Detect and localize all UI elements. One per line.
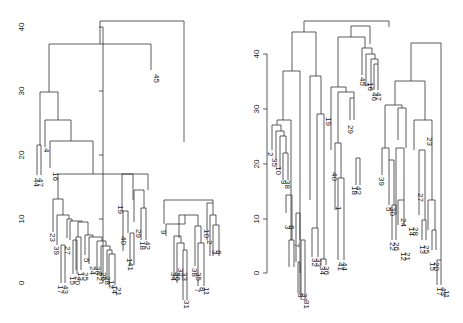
right-y-axis: 40 30 20 10 0 [252,49,267,275]
right-leaf-labels: 2 35 10 9 38 3 6 7 8 37 31 32 33 34 36 1… [266,77,451,309]
right-tick-30: 30 [252,104,261,113]
right-tick-40: 40 [252,49,261,58]
leaf-label: 21 [403,252,412,261]
leaf-label: 25 [422,245,431,254]
leaf-label: 5 [82,258,91,263]
right-tree [272,21,441,300]
leaf-label: 16 [366,82,375,91]
leaf-label: 10 [274,166,283,175]
right-tick-0: 0 [252,270,261,275]
leaf-label: 42 [354,186,363,195]
left-tick-30: 30 [17,86,26,95]
left-tick-10: 10 [17,214,26,223]
leaf-label: 2 [205,240,214,245]
leaf-label: 40 [119,236,128,245]
leaf-label: 31 [182,300,191,309]
leaf-label: 27 [416,193,425,202]
left-tick-0: 0 [17,280,26,285]
leaf-label: 19 [116,205,125,214]
leaf-label: 26 [392,242,401,251]
right-tick-20: 20 [252,159,261,168]
leaf-label: 47 [36,178,45,187]
leaf-label: 29 [134,229,143,238]
leaf-label: 1 [334,206,343,211]
leaf-label: 6 [214,250,223,255]
leaf-label: 43 [61,285,70,294]
leaf-label: 41 [126,262,135,271]
leaf-label: 44 [340,262,349,271]
leaf-label: 11 [442,290,451,299]
leaf-label: 45 [152,74,161,83]
left-tick-20: 20 [17,150,26,159]
leaf-label: 29 [346,125,355,134]
left-leaf-labels: 45 4 16 44 47 23 39 27 17 43 15 20 13 25… [32,74,161,296]
leaf-label: 2 [266,152,275,157]
leaf-label: 39 [377,177,386,186]
left-dendrogram: 40 30 20 10 0 [17,21,223,309]
leaf-label: 7 [292,243,301,248]
leaf-label: 39 [52,246,61,255]
leaf-label: 9 [159,230,168,235]
leaf-label: 38 [283,180,292,189]
leaf-label: 16 [51,172,60,181]
leaf-label: 21 [114,287,123,296]
leaf-label: 6 [287,225,296,230]
leaf-label: 27 [63,246,72,255]
leaf-label: 11 [202,287,211,296]
dendrogram-figure: 40 30 20 10 0 [0,0,463,323]
leaf-label: 36 [322,266,331,275]
leaf-label: 31 [302,300,311,309]
leaf-label: 42 [143,241,152,250]
leaf-label: 20 [432,262,441,271]
leaf-label: 24 [399,218,408,227]
leaf-label: 30 [388,207,397,216]
leaf-label: 10 [202,229,211,238]
leaf-label: 40 [330,172,339,181]
leaf-label: 35 [194,272,203,281]
left-tick-40: 40 [17,22,26,31]
right-dendrogram: 40 30 20 10 0 [252,21,451,309]
right-tick-10: 10 [252,214,261,223]
leaf-label: 4 [42,148,51,153]
leaf-label: 47 [374,92,383,101]
leaf-label: 28 [411,227,420,236]
leaf-label: 23 [425,137,434,146]
leaf-label: 23 [48,233,57,242]
leaf-label: 33 [180,272,189,281]
leaf-label: 19 [324,117,333,126]
